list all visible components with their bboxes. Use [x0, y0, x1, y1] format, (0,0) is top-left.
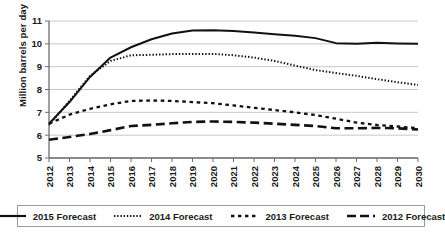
legend-item: 2013 Forecast	[230, 211, 329, 222]
x-tick-label: 2022	[249, 166, 260, 187]
x-tick-label: 2020	[208, 166, 219, 187]
x-tick-label: 2023	[269, 166, 280, 187]
y-tick-labels: 567891011	[31, 15, 42, 163]
y-tick-label: 8	[37, 84, 42, 95]
data-series	[49, 30, 418, 140]
x-tick-label: 2027	[351, 166, 362, 187]
y-tick-label: 9	[37, 61, 42, 72]
y-tick-label: 11	[32, 15, 43, 26]
x-tick-label: 2019	[187, 166, 198, 187]
x-tick-label: 2012	[44, 166, 55, 187]
x-tick-labels: 2012201320142015201620172018201920202021…	[44, 165, 424, 187]
x-tick-label: 2025	[310, 165, 321, 187]
x-tick-label: 2013	[64, 166, 75, 187]
legend-label: 2012 Forecast	[382, 211, 445, 222]
x-tick-label: 2029	[392, 166, 403, 187]
legend-swatch-dotted-icon	[113, 211, 143, 221]
x-tick-label: 2014	[85, 165, 96, 187]
x-tick-label: 2028	[372, 166, 383, 187]
legend-item: 2012 Forecast	[346, 211, 445, 222]
x-tick-label: 2024	[290, 165, 301, 187]
chart-legend: 2015 Forecast 2014 Forecast 2013 Forecas…	[17, 205, 425, 227]
legend-label: 2014 Forecast	[149, 211, 212, 222]
legend-swatch-longdash-icon	[346, 211, 376, 221]
x-tick-label: 2016	[126, 166, 137, 187]
y-tick-label: 5	[37, 152, 43, 163]
x-tick-label: 2026	[331, 166, 342, 187]
legend-item: 2015 Forecast	[0, 211, 96, 222]
legend-label: 2015 Forecast	[33, 211, 96, 222]
legend-swatch-dashed-icon	[230, 211, 260, 221]
x-tick-label: 2021	[228, 165, 239, 187]
legend-label: 2013 Forecast	[266, 211, 329, 222]
x-tick-label: 2030	[413, 166, 424, 187]
legend-swatch-solid-icon	[0, 211, 27, 221]
legend-item: 2014 Forecast	[113, 211, 212, 222]
grid-lines	[45, 21, 418, 158]
x-tick-label: 2015	[105, 165, 116, 187]
y-tick-label: 7	[37, 107, 42, 118]
series-line	[49, 100, 418, 128]
y-tick-label: 10	[31, 38, 42, 49]
x-tick-label: 2018	[167, 166, 178, 187]
y-tick-label: 6	[37, 130, 42, 141]
x-tick-label: 2017	[146, 166, 157, 187]
